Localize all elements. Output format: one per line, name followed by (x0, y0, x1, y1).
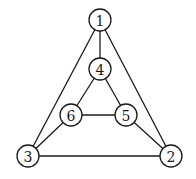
node-3: 3 (17, 145, 39, 167)
node-1: 1 (89, 9, 111, 31)
node-2: 2 (160, 145, 182, 167)
edge-1-3 (28, 20, 100, 156)
node-label: 5 (122, 108, 131, 124)
node-4: 4 (89, 58, 111, 80)
node-label: 4 (96, 62, 105, 78)
node-label: 2 (167, 149, 176, 165)
node-label: 3 (24, 149, 33, 165)
node-6: 6 (60, 104, 82, 126)
node-5: 5 (115, 104, 137, 126)
node-label: 1 (96, 13, 105, 29)
node-label: 6 (67, 108, 76, 124)
graph-diagram: 123456 (0, 0, 196, 179)
edge-layer (28, 20, 171, 156)
